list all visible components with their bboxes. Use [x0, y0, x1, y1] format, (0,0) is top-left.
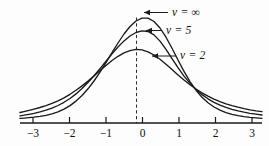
annotation-arrow-nu-2	[152, 53, 176, 58]
x-tick-label--2: −2	[57, 128, 83, 140]
curve-nu-2	[20, 49, 262, 112]
plot-canvas	[0, 0, 269, 146]
label-curve-nu-infinity: ν = ∞	[172, 6, 200, 18]
t-distribution-figure: ν = ∞ ν = 5 ν = 2 −3 −2 −1 0 1 2 3	[0, 0, 269, 146]
x-tick-label--3: −3	[20, 128, 46, 140]
x-tick-label-2: 2	[203, 128, 229, 140]
x-tick-label-0: 0	[130, 128, 156, 140]
x-tick-label-3: 3	[239, 128, 265, 140]
label-curve-nu-2: ν = 2	[180, 49, 205, 61]
x-tick-label-1: 1	[166, 128, 192, 140]
x-tick-label--1: −1	[93, 128, 119, 140]
label-curve-nu-5: ν = 5	[166, 24, 191, 36]
annotation-arrow-nu-infinity	[144, 10, 168, 15]
